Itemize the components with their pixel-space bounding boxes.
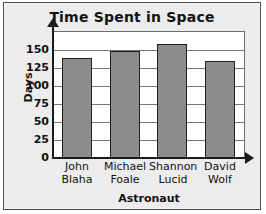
x-tick-label: ShannonLucid bbox=[149, 160, 197, 186]
bar bbox=[110, 51, 140, 158]
gridline bbox=[53, 50, 244, 51]
x-tick-label-line: Blaha bbox=[53, 173, 101, 186]
x-tick-label-line: Foale bbox=[101, 173, 149, 186]
bar bbox=[205, 61, 235, 158]
x-tick-label: JohnBlaha bbox=[53, 160, 101, 186]
x-tick-label-line: Lucid bbox=[149, 173, 197, 186]
y-axis-line bbox=[52, 25, 54, 159]
x-tick-label-line: Wolf bbox=[196, 173, 244, 186]
x-tick-label-line: Michael bbox=[101, 160, 149, 173]
x-tick-label-line: David bbox=[196, 160, 244, 173]
x-tick-label-line: John bbox=[53, 160, 101, 173]
chart-figure: Time Spent in Space 0255075100125150 Day… bbox=[3, 2, 261, 210]
x-tick-label: DavidWolf bbox=[196, 160, 244, 186]
y-axis-label: Days bbox=[22, 58, 35, 118]
x-axis-label: Astronaut bbox=[49, 192, 249, 205]
plot-area bbox=[53, 31, 245, 158]
x-tick-label: MichaelFoale bbox=[101, 160, 149, 186]
y-axis-arrow-icon bbox=[47, 18, 59, 27]
x-axis-category-labels: JohnBlahaMichaelFoaleShannonLucidDavidWo… bbox=[53, 160, 249, 194]
y-tick-label: 25 bbox=[9, 133, 49, 146]
bar bbox=[62, 58, 92, 158]
x-axis-line bbox=[52, 157, 246, 159]
x-tick-label-line: Shannon bbox=[149, 160, 197, 173]
y-tick-label: 0 bbox=[9, 151, 49, 164]
y-tick-label: 150 bbox=[9, 43, 49, 56]
bar bbox=[157, 44, 187, 158]
